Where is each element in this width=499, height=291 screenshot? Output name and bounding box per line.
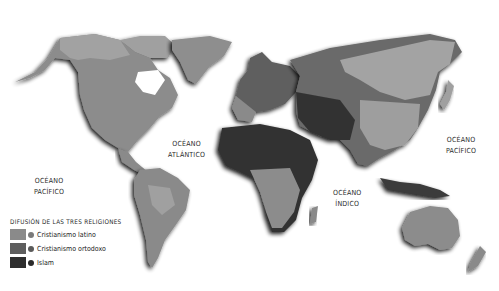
legend-item-cristianismo-latino: Cristianismo latino bbox=[10, 228, 121, 241]
swatch-cristianismo-ortodoxo bbox=[10, 243, 26, 254]
dot-icon bbox=[28, 232, 34, 238]
ocean-label-pacific-west: OCÉANO PACÍFICO bbox=[34, 176, 64, 198]
madagascar bbox=[310, 206, 318, 224]
north-america bbox=[15, 34, 178, 152]
swatch-islam bbox=[10, 257, 26, 268]
legend-item-islam: Islam bbox=[10, 256, 121, 269]
australia bbox=[402, 206, 460, 250]
africa bbox=[218, 124, 318, 232]
indonesia bbox=[380, 178, 450, 198]
legend-item-cristianismo-ortodoxo: Cristianismo ortodoxo bbox=[10, 242, 121, 255]
legend: DIFUSIÓN DE LAS TRES RELIGIONES Cristian… bbox=[10, 218, 121, 270]
japan bbox=[440, 80, 454, 110]
new-zealand bbox=[468, 246, 486, 272]
ocean-label-pacific-east: OCÉANO PACÍFICO bbox=[446, 135, 476, 157]
dot-icon bbox=[28, 260, 34, 266]
ocean-label-atlantic: OCÉANO ATLÁNTICO bbox=[168, 139, 205, 161]
greenland bbox=[172, 36, 232, 84]
south-america bbox=[134, 168, 190, 268]
legend-title: DIFUSIÓN DE LAS TRES RELIGIONES bbox=[10, 218, 121, 225]
asia bbox=[290, 34, 462, 166]
swatch-cristianismo-latino bbox=[10, 229, 26, 240]
ocean-label-indian: OCÉANO ÍNDICO bbox=[333, 188, 362, 210]
europe bbox=[232, 52, 300, 122]
dot-icon bbox=[28, 246, 34, 252]
